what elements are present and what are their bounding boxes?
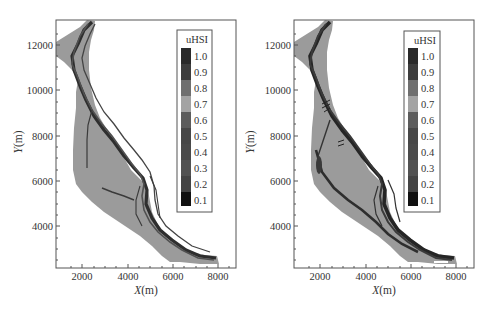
x-ticks [309,264,467,268]
y-axis-title: Y(m) [12,130,25,153]
legend-title: uHSI [186,34,209,45]
legend-label: 0.7 [421,99,434,110]
right-map-panel: 2000 4000 6000 8000 12000 10000 8000 600… [238,0,482,309]
y-tick-label: 8000 [32,131,53,142]
y-tick-label: 10000 [27,85,53,96]
legend: uHSI 1.0 0.9 0.8 0.7 0.6 0.5 0.4 0.3 0.2 [177,30,212,212]
dark-patch [316,156,322,174]
x-tick-label: 2000 [310,271,331,282]
legend-label: 0.3 [421,163,434,174]
legend-title: uHSI [414,35,437,46]
x-tick-label: 4000 [356,271,377,282]
right-map-plot: 2000 4000 6000 8000 12000 10000 8000 600… [238,0,482,309]
legend-label: 0.5 [194,131,207,142]
x-tick-label: 6000 [163,271,184,282]
legend-swatches [181,48,191,206]
x-tick-label: 8000 [208,271,229,282]
legend-label: 1.0 [194,51,207,62]
y-ticks [56,34,60,260]
left-map-panel: 2000 4000 6000 8000 12000 10000 8000 600… [0,0,244,309]
y-tick-label: 10000 [265,85,291,96]
legend-label: 0.1 [421,195,434,206]
legend-label: 0.1 [194,195,207,206]
legend-label: 0.4 [194,147,208,158]
x-axis-title: X(m) [371,284,396,297]
y-tick-label: 12000 [265,40,291,51]
legend-label: 0.9 [194,67,207,78]
y-tick-label: 12000 [27,40,53,51]
legend-swatches [408,48,418,206]
legend-label: 0.8 [421,83,434,94]
x-tick-label: 2000 [72,271,93,282]
legend-label: 0.9 [421,67,434,78]
y-axis-title: Y(m) [244,130,257,153]
y-tick-label: 4000 [32,221,53,232]
legend-label: 0.8 [194,83,207,94]
legend-label: 0.2 [421,179,434,190]
x-axis-title: X(m) [133,284,158,297]
left-map-plot: 2000 4000 6000 8000 12000 10000 8000 600… [0,0,244,309]
legend-label: 0.6 [194,115,207,126]
x-tick-label: 6000 [401,271,422,282]
y-tick-label: 6000 [270,176,291,187]
legend-label: 0.3 [194,163,207,174]
legend-label: 0.4 [421,147,435,158]
y-ticks [294,34,298,260]
y-tick-label: 6000 [32,176,53,187]
legend-label: 0.6 [421,115,434,126]
legend-label: 0.5 [421,131,434,142]
legend-label: 1.0 [421,51,434,62]
y-tick-label: 4000 [270,221,291,232]
legend-label: 0.7 [194,99,207,110]
legend: uHSI 1.0 0.9 0.8 0.7 0.6 0.5 0.4 0.3 0.2 [404,31,440,212]
y-tick-label: 8000 [270,131,291,142]
x-tick-label: 8000 [446,271,467,282]
x-ticks [71,264,229,268]
legend-label: 0.2 [194,179,207,190]
x-tick-label: 4000 [118,271,139,282]
